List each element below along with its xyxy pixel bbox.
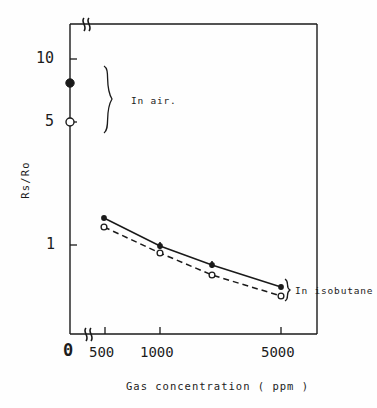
series-dashed-open	[101, 224, 284, 299]
y-axis-title: Rs/Ro	[19, 161, 31, 199]
point-open-500	[101, 224, 107, 230]
brace-in-isobutane-icon	[285, 279, 290, 301]
point-solid-5000	[278, 284, 284, 290]
x-axis-ticks	[105, 327, 281, 334]
point-open-1000	[157, 250, 163, 256]
y-tick-label-5: 5	[45, 114, 54, 129]
x-axis-title: Gas concentration ( ppm )	[126, 381, 309, 392]
annotation-in-isobutane: In isobutane	[295, 286, 373, 296]
air-filled-circle-marker	[66, 79, 74, 87]
x-tick-label-1000: 1000	[140, 345, 174, 359]
x-tick-label-5000: 5000	[261, 345, 295, 359]
point-solid-500	[101, 215, 107, 221]
point-open-5000	[278, 293, 284, 299]
y-tick-label-10: 10	[36, 51, 54, 66]
brace-in-air-icon	[104, 66, 112, 133]
point-open-2000	[209, 272, 215, 278]
y-tick-label-1: 1	[46, 237, 55, 252]
series-solid-filled	[101, 215, 284, 290]
series-dashed-line	[104, 227, 281, 296]
annotation-in-air: In air.	[131, 96, 177, 106]
chart-canvas	[0, 0, 377, 408]
x-tick-label-0: 0	[63, 342, 73, 359]
series-solid-line	[104, 218, 281, 287]
chart-figure: 10 5 1 0 500 1000 5000 Gas concentration…	[0, 0, 377, 408]
x-tick-label-500: 500	[89, 345, 114, 359]
air-open-circle-marker	[66, 118, 74, 126]
y-axis-title-wrap: Rs/Ro	[14, 150, 36, 210]
